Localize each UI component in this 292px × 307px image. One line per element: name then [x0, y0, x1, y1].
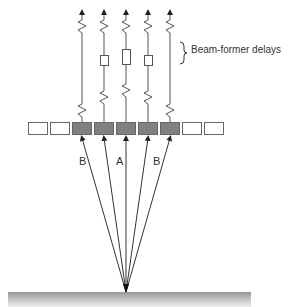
- element-4: [95, 123, 114, 135]
- channel-1: [78, 12, 86, 122]
- ray-b-right: [126, 138, 170, 292]
- delay-box-3: [123, 50, 131, 65]
- element-5: [117, 123, 136, 135]
- element-2: [51, 123, 70, 135]
- element-9: [205, 123, 224, 135]
- channel-2: [100, 12, 109, 122]
- channel-4: [144, 12, 153, 122]
- label-beam-a: A: [116, 156, 123, 167]
- channel-3: [122, 12, 131, 122]
- ray-4: [126, 138, 148, 292]
- element-1: [29, 123, 48, 135]
- label-beam-b-right: B: [153, 156, 160, 167]
- element-6: [139, 123, 158, 135]
- reflecting-surface: [8, 292, 251, 307]
- delay-box-4: [145, 56, 153, 66]
- label-beam-b-left: B: [79, 156, 86, 167]
- element-8: [183, 123, 202, 135]
- delay-box-2: [101, 56, 109, 66]
- element-7: [161, 123, 180, 135]
- delay-brace: [180, 42, 187, 64]
- beamformer-diagram: B A B Beam-former delays: [0, 0, 292, 307]
- channel-5: [166, 12, 174, 122]
- element-3: [73, 123, 92, 135]
- focal-point: [123, 284, 129, 293]
- beamformer-delays-caption: Beam-former delays: [191, 44, 281, 55]
- transducer-array: [29, 123, 224, 135]
